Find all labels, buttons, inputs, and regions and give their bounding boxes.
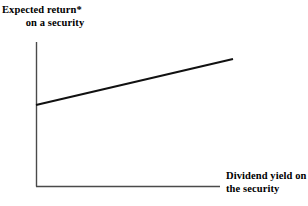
chart-figure: Expected return* on a security Dividend … [0,0,308,206]
x-axis-label-line-2: the security [226,183,308,196]
x-axis-label: Dividend yield on the security [226,170,308,195]
x-axis-label-line-1: Dividend yield on [226,170,308,183]
data-series-line [36,59,233,105]
